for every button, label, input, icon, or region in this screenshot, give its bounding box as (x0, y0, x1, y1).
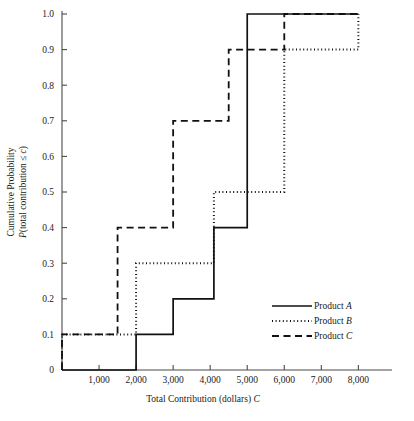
y-tick-label: 0.6 (42, 152, 54, 162)
y-tick-label: 1.0 (42, 9, 54, 19)
x-axis-title: Total Contribution (dollars) C (146, 394, 260, 405)
x-tick-label: 2,000 (125, 375, 147, 385)
y-axis-ticks: 00.10.20.30.40.50.60.70.80.91.0 (42, 9, 67, 375)
chart-figure: 00.10.20.30.40.50.60.70.80.91.0 1,0002,0… (0, 0, 414, 421)
y-tick-label: 0.1 (42, 330, 54, 340)
y-tick-label: 0.7 (42, 116, 54, 126)
legend-label-b: Product B (314, 316, 352, 326)
x-axis-ticks: 1,0002,0003,0004,0005,0006,0007,0008,000 (88, 365, 369, 385)
x-tick-label: 3,000 (162, 375, 184, 385)
y-tick-label: 0.3 (42, 259, 54, 269)
axis-titles: Total Contribution (dollars) CCumulative… (6, 146, 260, 405)
y-tick-label: 0.8 (42, 81, 54, 91)
y-axis-title-line2: P(total contribution ≤ c) (18, 146, 29, 239)
y-tick-label: 0 (49, 365, 54, 375)
legend-label-a: Product A (314, 301, 352, 311)
x-tick-label: 1,000 (88, 375, 110, 385)
legend-label-c: Product C (314, 331, 353, 341)
x-tick-label: 5,000 (237, 375, 259, 385)
y-tick-label: 0.2 (42, 294, 54, 304)
y-axis-title-line1: Cumulative Probability (6, 147, 16, 236)
x-tick-label: 6,000 (274, 375, 296, 385)
x-tick-label: 7,000 (311, 375, 333, 385)
y-tick-label: 0.4 (42, 223, 54, 233)
cumulative-probability-step-chart: 00.10.20.30.40.50.60.70.80.91.0 1,0002,0… (0, 0, 414, 421)
y-tick-label: 0.5 (42, 187, 54, 197)
x-tick-label: 4,000 (199, 375, 221, 385)
y-tick-label: 0.9 (42, 45, 54, 55)
x-tick-label: 8,000 (348, 375, 370, 385)
chart-legend: Product AProduct BProduct C (272, 301, 353, 341)
